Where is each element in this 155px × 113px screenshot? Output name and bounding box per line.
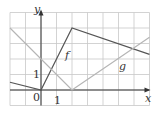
y-tick-label-1: 1 [33, 69, 40, 80]
x-axis-label: x [145, 93, 151, 104]
x-tick-label-1: 1 [54, 95, 61, 106]
f-label: f [65, 50, 69, 61]
origin-label: 0 [33, 92, 40, 103]
g-label: g [119, 61, 126, 72]
function-graph [0, 0, 155, 113]
y-axis-label: y [34, 4, 40, 15]
